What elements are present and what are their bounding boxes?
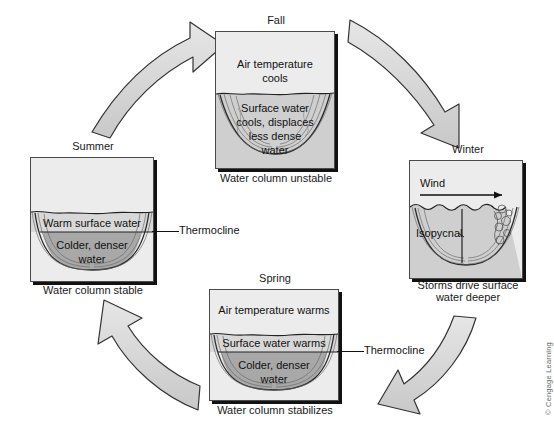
- copyright-notice: © Cengage Learning: [544, 342, 553, 415]
- panel-winter-caption-line1: Storms drive surface: [418, 279, 519, 291]
- fall-sky-line1: Air temperature: [237, 58, 313, 70]
- spring-deep-line1: Colder, denser: [238, 359, 310, 371]
- fall-water-line1: Surface water: [241, 102, 309, 114]
- fall-water-line4: water: [261, 144, 289, 156]
- panel-fall-title: Fall: [215, 14, 337, 26]
- spring-thermocline-leader: [337, 351, 364, 352]
- panel-summer-illustration: Warm surface water Colder, denser water: [30, 157, 154, 282]
- panel-fall-illustration: Air temperature cools Surface water cool…: [215, 31, 335, 169]
- arrow-fall-to-winter: [348, 20, 459, 148]
- fall-water-line2: cools, displaces: [236, 116, 314, 128]
- arrow-spring-to-summer: [98, 300, 200, 410]
- panel-spring-title: Spring: [209, 272, 341, 284]
- spring-deep-line2: water: [260, 373, 288, 385]
- panel-winter-illustration: Wind Isopycnal: [409, 160, 523, 279]
- panel-spring-illustration: Air temperature warms Surface water warm…: [209, 289, 339, 401]
- summer-deep-line1: Colder, denser: [56, 239, 128, 251]
- summer-thermocline-label: Thermocline: [179, 224, 240, 236]
- summer-thermocline-leader: [152, 231, 179, 232]
- spring-surface-text: Surface water warms: [222, 337, 326, 349]
- panel-summer-caption: Water column stable: [43, 284, 143, 296]
- spring-sky-text: Air temperature warms: [218, 304, 330, 316]
- summer-surface-text: Warm surface water: [43, 217, 141, 229]
- panel-spring-caption: Water column stabilizes: [217, 404, 333, 416]
- spring-thermocline-label: Thermocline: [364, 344, 425, 356]
- seasonal-stratification-cycle-diagram: Fall: [0, 0, 554, 445]
- panel-winter-title: Winter: [409, 143, 527, 155]
- fall-water-line3: less dense: [249, 130, 302, 142]
- winter-wind-label: Wind: [420, 177, 445, 189]
- panel-summer-title: Summer: [30, 140, 156, 152]
- arrow-summer-to-fall: [92, 22, 224, 138]
- winter-isopycnal-label: Isopycnal: [416, 227, 462, 239]
- arrow-winter-to-spring: [378, 316, 476, 414]
- summer-deep-line2: water: [78, 253, 106, 265]
- panel-winter-caption-line2: water deeper: [436, 291, 500, 303]
- panel-fall-caption: Water column unstable: [220, 172, 332, 184]
- fall-sky-line2: cools: [262, 72, 288, 84]
